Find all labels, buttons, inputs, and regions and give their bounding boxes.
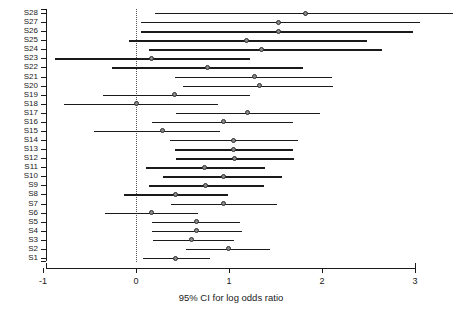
ci-row	[0, 54, 462, 63]
ci-point-estimate	[303, 11, 308, 16]
ci-point-estimate	[149, 210, 154, 215]
ci-row	[0, 163, 462, 172]
ci-point-estimate	[194, 219, 199, 224]
ci-row	[0, 154, 462, 163]
ci-row	[0, 127, 462, 136]
ci-row	[0, 45, 462, 54]
x-tick-label: 3	[400, 276, 430, 286]
ci-row	[0, 209, 462, 218]
ci-row	[0, 18, 462, 27]
ci-point-estimate	[257, 83, 262, 88]
x-axis-cap-left	[46, 263, 47, 269]
x-tick-0	[136, 268, 137, 273]
ci-row	[0, 109, 462, 118]
ci-point-estimate	[173, 192, 178, 197]
ci-row	[0, 172, 462, 181]
ci-row	[0, 91, 462, 100]
ci-point-estimate	[276, 20, 281, 25]
ci-row	[0, 118, 462, 127]
x-tick-label: 0	[121, 276, 151, 286]
ci-point-estimate	[276, 29, 281, 34]
ci-row	[0, 27, 462, 36]
ci-point-estimate	[134, 101, 139, 106]
ci-point-estimate	[259, 47, 264, 52]
ci-point-estimate	[149, 56, 154, 61]
x-tick-label: 1	[214, 276, 244, 286]
x-tick-label: -1	[28, 276, 58, 286]
ci-row	[0, 100, 462, 109]
x-axis-title: 95% CI for log odds ratio	[0, 292, 462, 303]
ci-row	[0, 227, 462, 236]
ci-bar	[64, 104, 217, 105]
ci-bar	[149, 49, 382, 50]
ci-row	[0, 200, 462, 209]
ci-row	[0, 218, 462, 227]
x-axis-line	[46, 268, 416, 269]
x-tick-1	[229, 268, 230, 273]
ci-row	[0, 63, 462, 72]
ci-row	[0, 36, 462, 45]
ci-point-estimate	[205, 65, 210, 70]
ci-point-estimate	[221, 119, 226, 124]
ci-bar	[103, 95, 250, 96]
ci-row	[0, 145, 462, 154]
ci-point-estimate	[226, 246, 231, 251]
ci-row	[0, 245, 462, 254]
ci-point-estimate	[221, 201, 226, 206]
ci-point-estimate	[221, 174, 226, 179]
ci-row	[0, 136, 462, 145]
x-tick-2	[322, 268, 323, 273]
ci-point-estimate	[203, 183, 208, 188]
ci-point-estimate	[244, 38, 249, 43]
ci-row	[0, 190, 462, 199]
ci-point-estimate	[173, 256, 178, 261]
ci-row	[0, 236, 462, 245]
ci-point-estimate	[232, 156, 237, 161]
ci-row	[0, 82, 462, 91]
ci-row	[0, 9, 462, 18]
ci-point-estimate	[172, 92, 177, 97]
ci-row	[0, 254, 462, 263]
ci-row	[0, 181, 462, 190]
ci-point-estimate	[189, 237, 194, 242]
x-tick-neg1	[43, 268, 44, 273]
forest-plot: S28S27S26S25S24S23S22S21S20S19S18S17S16S…	[0, 0, 462, 316]
ci-point-estimate	[245, 110, 250, 115]
ci-point-estimate	[202, 165, 207, 170]
ci-point-estimate	[194, 228, 199, 233]
ci-point-estimate	[160, 128, 165, 133]
x-axis-cap-right	[415, 263, 416, 269]
ci-row	[0, 73, 462, 82]
ci-point-estimate	[252, 74, 257, 79]
ci-point-estimate	[231, 147, 236, 152]
x-tick-label: 2	[307, 276, 337, 286]
ci-point-estimate	[231, 138, 236, 143]
ci-bar	[94, 131, 220, 132]
